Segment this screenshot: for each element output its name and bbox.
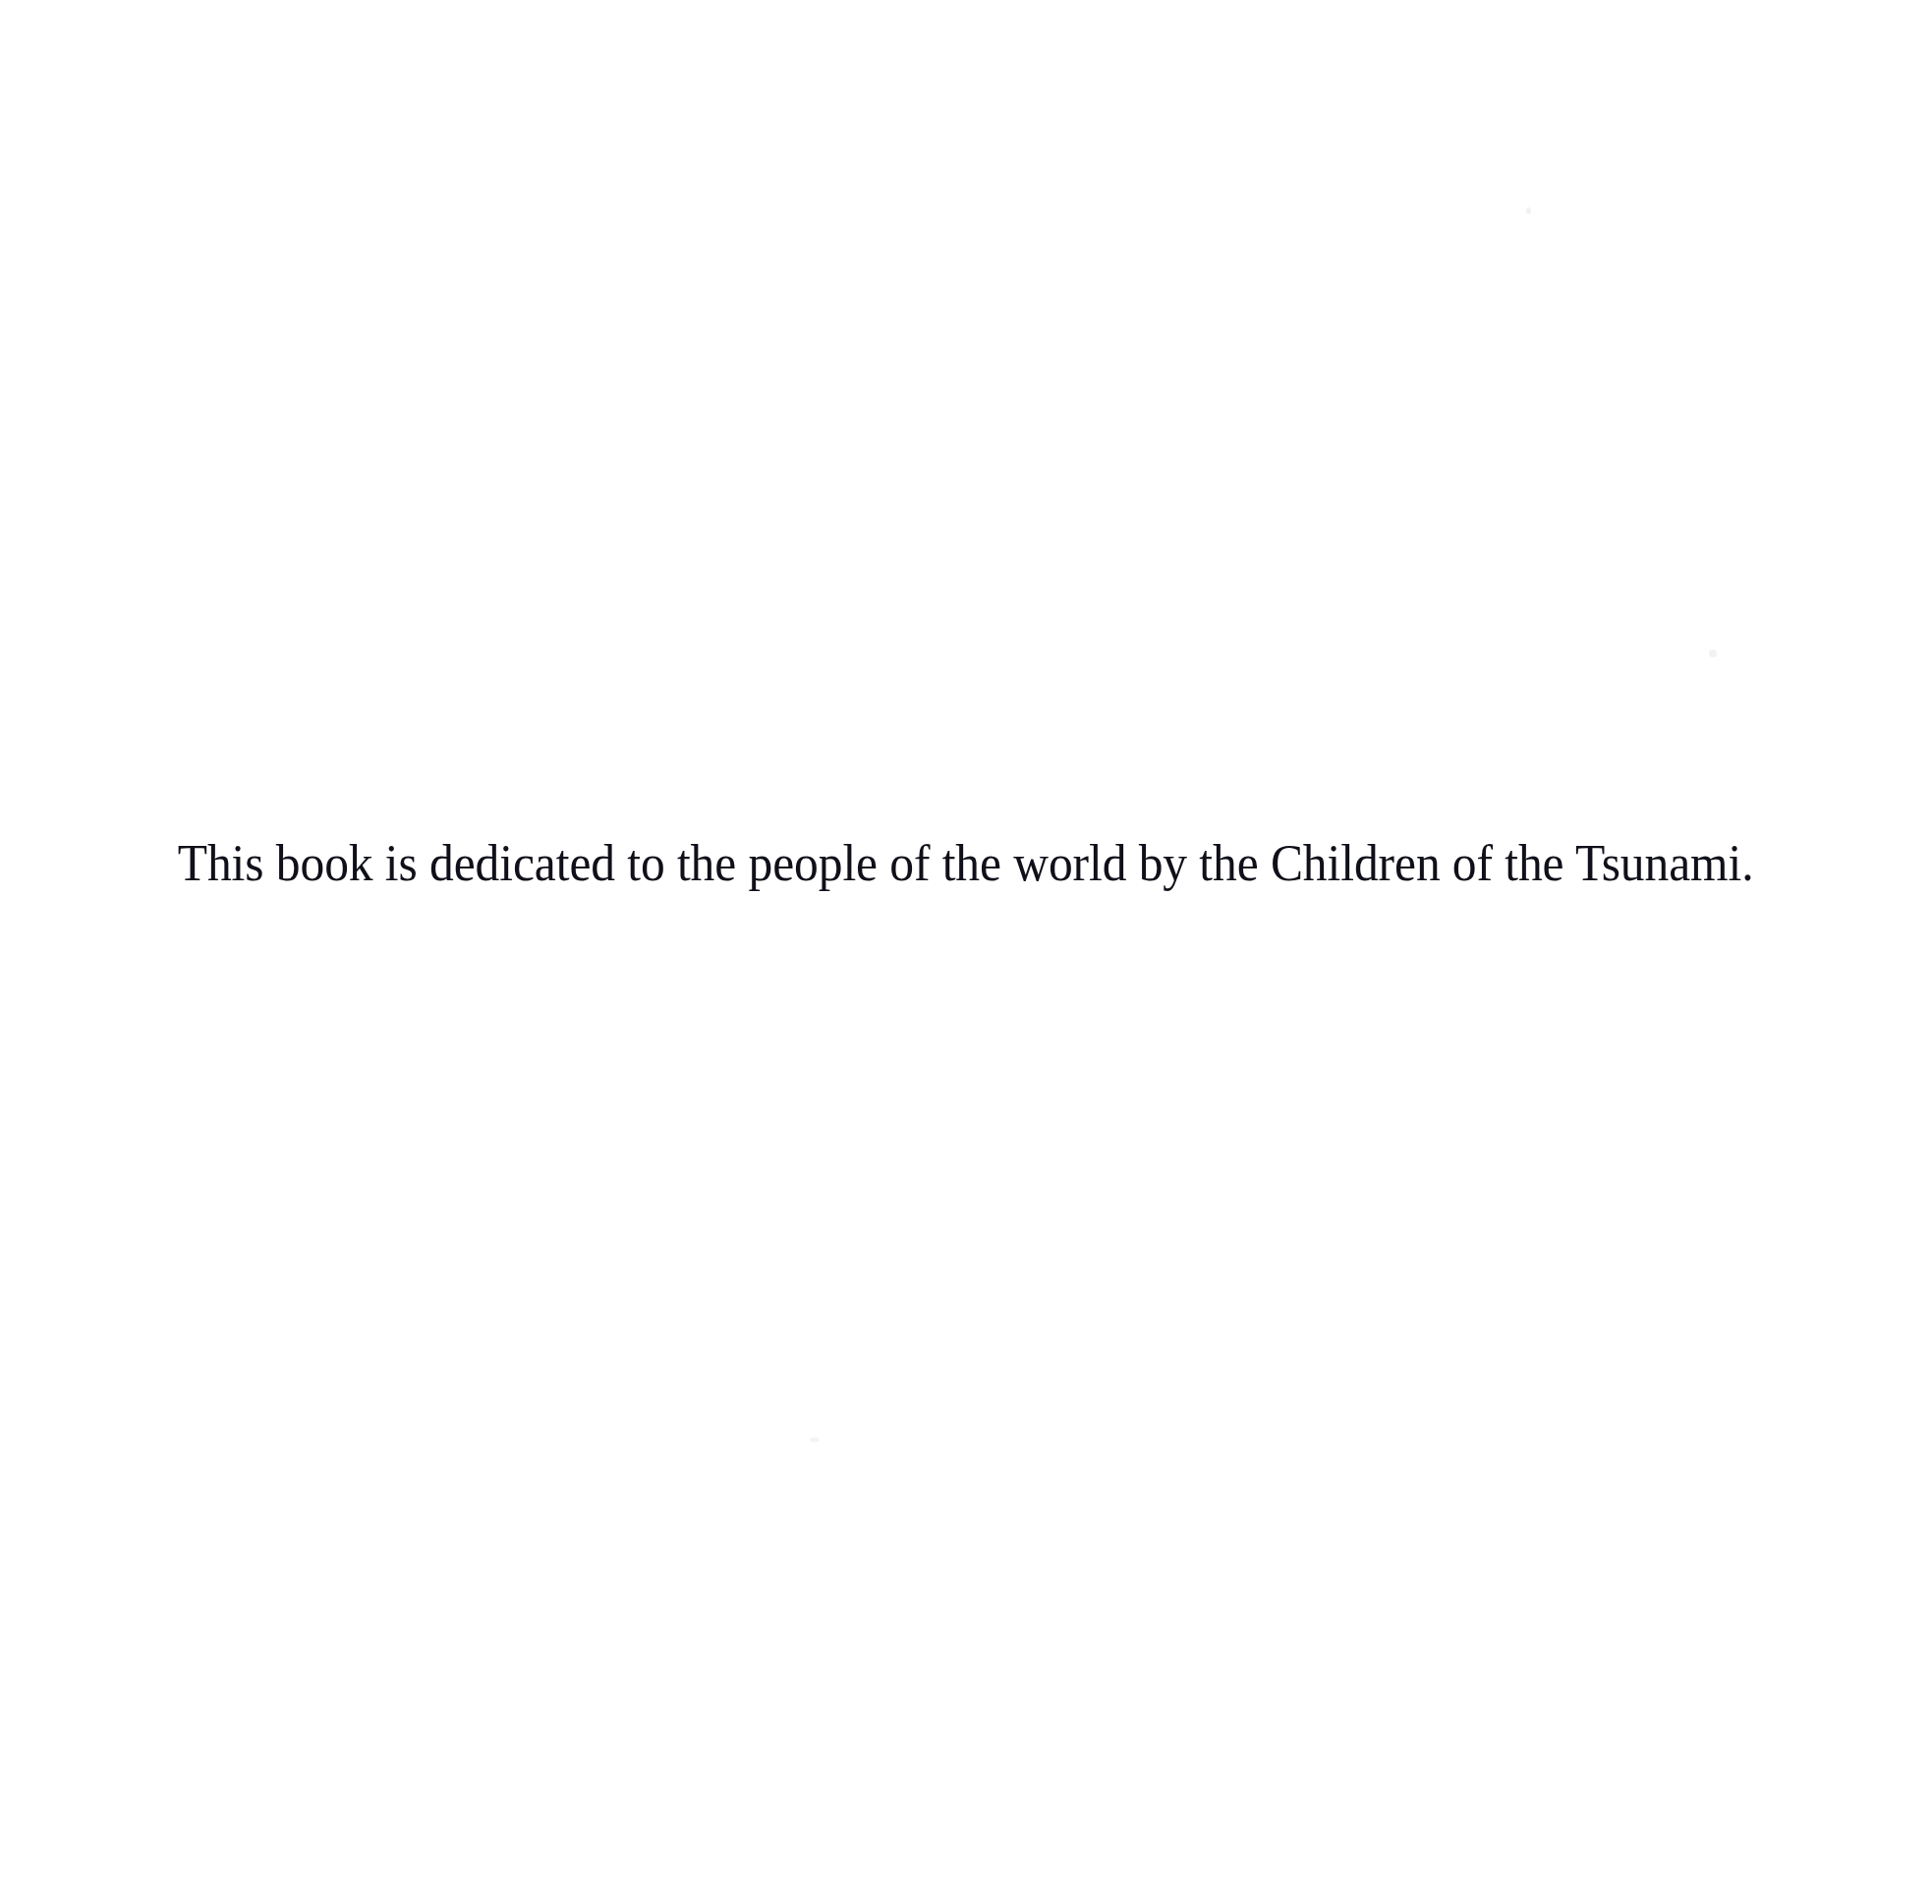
scan-speck-artifact <box>1709 649 1717 657</box>
dedication-text: This book is dedicated to the people of … <box>178 835 1754 890</box>
dedication-block: This book is dedicated to the people of … <box>0 823 1932 902</box>
dedication-page: This book is dedicated to the people of … <box>0 0 1932 1904</box>
scan-speck-artifact <box>1526 207 1531 214</box>
scan-speck-artifact <box>810 1437 820 1442</box>
